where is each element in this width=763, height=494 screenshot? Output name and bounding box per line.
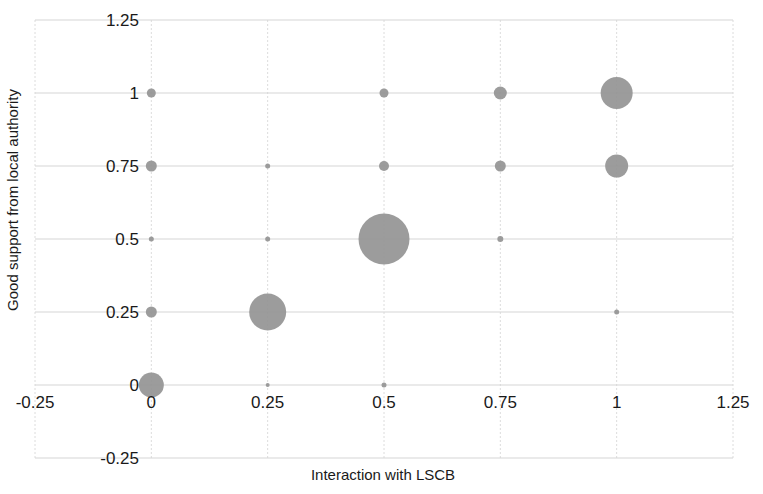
data-point-bubble xyxy=(266,383,270,387)
x-tick-label: 1 xyxy=(612,393,621,412)
x-tick-label: 0.75 xyxy=(484,393,517,412)
y-tick-label: 0.75 xyxy=(106,157,139,176)
y-tick-label: -0.25 xyxy=(100,449,139,468)
chart-page: -0.2500.250.50.7511.25 -0.2500.250.50.75… xyxy=(0,0,763,494)
y-tick-label: 0.5 xyxy=(115,230,139,249)
data-point-bubble xyxy=(146,161,157,172)
x-tick-label: 1.25 xyxy=(716,393,749,412)
x-axis-tick-labels: -0.2500.250.50.7511.25 xyxy=(16,393,750,412)
data-point-bubble xyxy=(614,310,619,315)
data-point-bubble xyxy=(497,236,503,242)
data-point-bubble xyxy=(495,161,506,172)
y-tick-label: 1.25 xyxy=(106,11,139,30)
y-tick-label: 1 xyxy=(130,84,139,103)
data-point-bubble xyxy=(605,155,628,178)
data-point-bubble xyxy=(147,89,156,98)
data-point-bubble xyxy=(359,214,410,265)
x-tick-label: 0.5 xyxy=(372,393,396,412)
x-tick-label: 0 xyxy=(147,393,156,412)
x-axis-title: Interaction with LSCB xyxy=(183,466,583,483)
data-point-bubble xyxy=(494,87,507,100)
data-point-bubble xyxy=(146,307,157,318)
data-point-bubble xyxy=(265,164,270,169)
y-tick-label: 0.25 xyxy=(106,303,139,322)
data-point-bubble xyxy=(249,294,286,331)
data-point-bubble xyxy=(382,383,387,388)
data-point-bubble xyxy=(601,77,633,109)
y-tick-label: 0 xyxy=(130,376,139,395)
data-point-bubble xyxy=(379,161,389,171)
x-tick-label: 0.25 xyxy=(251,393,284,412)
data-point-bubble xyxy=(149,237,154,242)
data-points xyxy=(139,77,633,398)
data-point-bubble xyxy=(380,89,389,98)
data-point-bubble xyxy=(265,237,270,242)
y-axis-title: Good support from local authority xyxy=(0,0,26,400)
bubble-chart: -0.2500.250.50.7511.25 -0.2500.250.50.75… xyxy=(0,0,763,494)
